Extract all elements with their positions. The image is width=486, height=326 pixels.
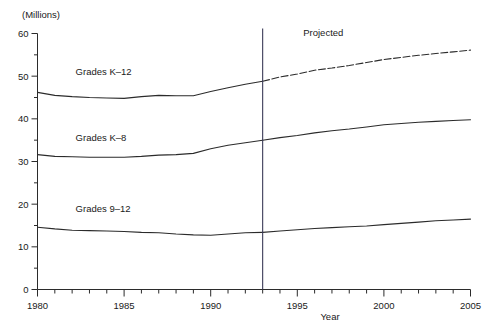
x-tick-label: 1980 xyxy=(27,300,48,311)
y-tick-label: 60 xyxy=(18,28,29,39)
x-axis-ticks xyxy=(38,290,471,297)
y-tick-label: 10 xyxy=(18,241,29,252)
y-axis-ticks xyxy=(32,34,38,290)
x-tick-label: 1990 xyxy=(200,300,221,311)
y-tick-label: 40 xyxy=(18,113,29,124)
series-line-projected xyxy=(263,219,471,232)
x-tick-label: 1995 xyxy=(287,300,308,311)
x-axis-tick-labels: 198019851990199520002005 xyxy=(27,300,481,311)
enrollment-line-chart: 0102030405060 198019851990199520002005 G… xyxy=(0,0,486,326)
series-label: Grades K–12 xyxy=(76,66,132,77)
y-tick-label: 20 xyxy=(18,199,29,210)
series-line-historical xyxy=(38,81,263,98)
y-tick-label: 30 xyxy=(18,156,29,167)
chart-annotations: Projected xyxy=(303,27,343,38)
y-tick-label: 0 xyxy=(23,284,28,295)
x-tick-label: 2005 xyxy=(460,300,481,311)
y-tick-label: 50 xyxy=(18,71,29,82)
series-label: Grades K–8 xyxy=(76,132,127,143)
series-line-historical xyxy=(38,227,263,235)
projected-annotation: Projected xyxy=(303,27,343,38)
series-inline-labels: Grades K–12Grades K–8Grades 9–12 xyxy=(76,66,132,214)
x-axis-title: Year xyxy=(320,311,339,322)
series-line-projected xyxy=(263,50,471,81)
y-axis-tick-labels: 0102030405060 xyxy=(18,28,29,295)
series-label: Grades 9–12 xyxy=(76,203,131,214)
chart-canvas: 0102030405060 198019851990199520002005 G… xyxy=(0,0,486,326)
x-tick-label: 2000 xyxy=(373,300,394,311)
series-line-projected xyxy=(263,120,471,140)
series-line-historical xyxy=(38,140,263,157)
x-tick-label: 1985 xyxy=(114,300,135,311)
y-axis-unit-label: (Millions) xyxy=(22,9,60,20)
